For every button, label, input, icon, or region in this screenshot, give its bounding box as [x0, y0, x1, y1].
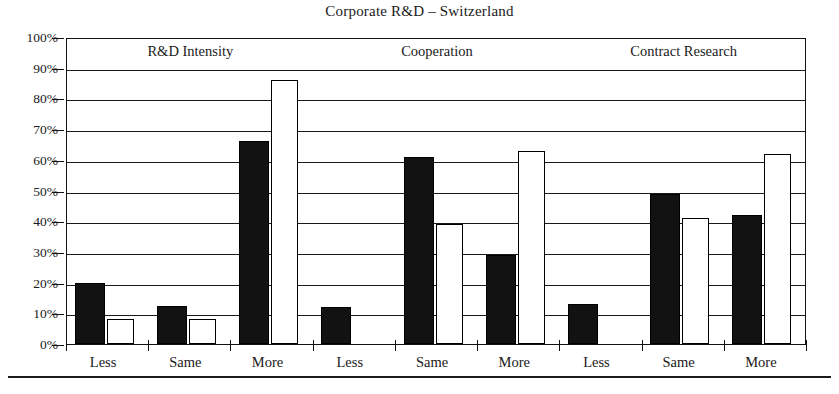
y-tick-mark	[52, 130, 64, 131]
y-tick-mark	[52, 161, 64, 162]
chart-figure: Corporate R&D – Switzerland 0%10%20%30%4…	[0, 0, 839, 394]
bar-dark	[157, 306, 187, 344]
bar-light	[764, 154, 791, 344]
x-tick-mark	[230, 340, 231, 351]
bar-dark	[568, 304, 598, 344]
x-tick-label: Less	[583, 354, 610, 371]
x-tick-label: More	[252, 354, 283, 371]
bar-dark	[732, 215, 762, 344]
group-band-label: Cooperation	[401, 43, 473, 60]
bar-dark	[486, 255, 516, 344]
x-tick-mark	[66, 340, 67, 351]
x-tick-mark	[148, 340, 149, 351]
gridline	[67, 100, 805, 101]
y-axis: 0%10%20%30%40%50%60%70%80%90%100%	[0, 38, 58, 345]
y-tick-mark	[52, 345, 64, 346]
x-tick-label: More	[745, 354, 776, 371]
bar-light	[189, 319, 216, 344]
y-tick-mark	[52, 192, 64, 193]
y-tick-mark	[52, 253, 64, 254]
x-tick-mark	[724, 340, 725, 351]
y-tick-mark	[52, 99, 64, 100]
y-tick-label: 80%	[4, 93, 58, 107]
gridline	[67, 131, 805, 132]
x-tick-mark	[559, 340, 560, 351]
group-band-label: Contract Research	[630, 43, 737, 60]
x-tick-mark	[395, 340, 396, 351]
bar-dark	[75, 283, 105, 344]
y-tick-mark	[52, 284, 64, 285]
y-tick-label: 100%	[4, 31, 58, 45]
x-tick-label: Same	[169, 354, 201, 371]
y-tick-mark	[52, 222, 64, 223]
bar-light	[436, 224, 463, 344]
y-tick-label: 0%	[4, 338, 58, 352]
gridline	[67, 162, 805, 163]
bar-dark	[239, 141, 269, 344]
x-tick-label: More	[499, 354, 530, 371]
y-tick-label: 50%	[4, 185, 58, 199]
gridline	[67, 193, 805, 194]
y-tick-mark	[52, 314, 64, 315]
y-tick-label: 30%	[4, 246, 58, 260]
bottom-rule	[8, 376, 831, 378]
x-tick-label: Same	[663, 354, 695, 371]
x-tick-mark	[477, 340, 478, 351]
y-tick-label: 90%	[4, 62, 58, 76]
bar-light	[107, 319, 134, 344]
plot-area: R&D IntensityCooperationContract Researc…	[66, 38, 806, 345]
x-tick-mark	[806, 340, 807, 351]
y-tick-label: 60%	[4, 154, 58, 168]
bar-dark	[321, 307, 351, 344]
y-tick-label: 10%	[4, 308, 58, 322]
bar-dark	[650, 194, 680, 344]
y-tick-mark	[52, 69, 64, 70]
x-axis: LessSameMoreLessSameMoreLessSameMore	[66, 345, 806, 385]
chart-title: Corporate R&D – Switzerland	[0, 3, 839, 20]
group-band-label: R&D Intensity	[147, 43, 233, 60]
x-tick-mark	[642, 340, 643, 351]
bar-dark	[404, 157, 434, 344]
y-tick-label: 20%	[4, 277, 58, 291]
x-tick-mark	[313, 340, 314, 351]
bar-light	[271, 80, 298, 344]
y-tick-label: 40%	[4, 215, 58, 229]
bar-light	[682, 218, 709, 344]
bar-light	[518, 151, 545, 344]
x-tick-label: Less	[90, 354, 117, 371]
x-tick-label: Less	[336, 354, 363, 371]
x-tick-label: Same	[416, 354, 448, 371]
y-tick-mark	[52, 38, 64, 39]
y-tick-label: 70%	[4, 123, 58, 137]
gridline	[67, 70, 805, 71]
